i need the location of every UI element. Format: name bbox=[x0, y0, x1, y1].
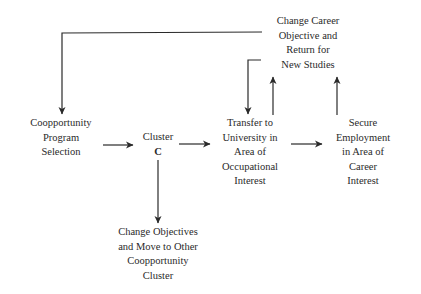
node-line: University in bbox=[206, 131, 294, 146]
node-line: Occupational bbox=[206, 160, 294, 175]
node-change-objectives: Change Objectives and Move to Other Coop… bbox=[103, 225, 213, 283]
node-secure-employment: Secure Employment in Area of Career Inte… bbox=[320, 116, 406, 189]
node-line: Selection bbox=[16, 145, 106, 160]
node-line: Change Career bbox=[258, 14, 358, 29]
node-line: Career bbox=[320, 160, 406, 175]
node-change-career-objective: Change Career Objective and Return for N… bbox=[258, 14, 358, 72]
node-line: Area of bbox=[206, 145, 294, 160]
node-line: Secure bbox=[320, 116, 406, 131]
node-line: New Studies bbox=[258, 58, 358, 73]
node-line: Change Objectives bbox=[103, 225, 213, 240]
node-line: Coopportunity bbox=[16, 116, 106, 131]
node-line: Objective and bbox=[258, 29, 358, 44]
node-line: Return for bbox=[258, 43, 358, 58]
node-line: Coopportunity bbox=[103, 254, 213, 269]
node-line: in Area of bbox=[320, 145, 406, 160]
node-line: Employment bbox=[320, 131, 406, 146]
node-line: Program bbox=[16, 131, 106, 146]
node-line: Interest bbox=[206, 174, 294, 189]
node-line: Transfer to bbox=[206, 116, 294, 131]
node-line: and Move to Other bbox=[103, 240, 213, 255]
node-line: Cluster bbox=[103, 269, 213, 284]
arrow-change-career-to-program bbox=[62, 32, 262, 114]
node-line: Interest bbox=[320, 174, 406, 189]
node-line: C bbox=[133, 145, 183, 160]
node-coopportunity-program-selection: Coopportunity Program Selection bbox=[16, 116, 106, 160]
node-transfer-to-university: Transfer to University in Area of Occupa… bbox=[206, 116, 294, 189]
node-cluster-c: Cluster C bbox=[133, 130, 183, 159]
node-line: Cluster bbox=[133, 130, 183, 145]
